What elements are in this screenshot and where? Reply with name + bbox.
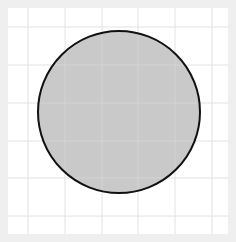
gray-circle-shape[interactable] (38, 31, 200, 193)
diagram-svg (0, 0, 236, 242)
diagram-canvas (0, 0, 236, 242)
